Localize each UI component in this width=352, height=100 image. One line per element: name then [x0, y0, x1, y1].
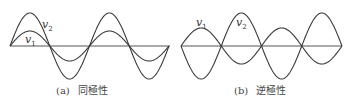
panel-a: v2 v1: [10, 13, 170, 79]
caption-b: (b)逆極性: [234, 82, 286, 97]
label-v2-b: v2: [236, 16, 247, 31]
caption-text-a: 同極性: [78, 85, 108, 96]
label-v1-b: v1: [196, 16, 207, 31]
caption-text-b: 逆極性: [256, 85, 286, 96]
caption-tag-b: (b): [234, 85, 248, 96]
caption-tag-a: (a): [56, 85, 70, 96]
label-v1-a: v1: [25, 33, 36, 48]
caption-a: (a)同極性: [56, 82, 108, 97]
panel-b: v1 v2: [181, 13, 342, 79]
label-v2-a: v2: [42, 18, 53, 33]
waveform-diagram: v2 v1 v1 v2: [0, 0, 352, 100]
